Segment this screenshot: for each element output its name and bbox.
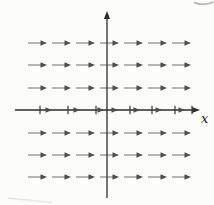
field-arrowhead [161,62,168,67]
field-arrowhead [113,85,120,90]
field-arrowhead [113,40,120,45]
field-arrowhead [89,62,96,67]
axis-field-arrowhead [156,107,163,112]
field-arrowhead [185,40,192,45]
field-arrowhead [89,152,96,157]
field-arrowhead [113,130,120,135]
axis-field-arrowhead [74,107,81,112]
bottom-left-scan-smudge [8,198,52,203]
field-arrowhead [137,40,144,45]
field-arrowhead [89,85,96,90]
field-arrowhead [161,130,168,135]
field-arrowhead [137,130,144,135]
field-arrowhead [65,152,72,157]
field-arrowhead [185,152,192,157]
axis-field-arrowhead [46,107,53,112]
field-arrowhead [161,85,168,90]
axis-field-arrowhead [134,107,141,112]
field-arrowhead [65,40,72,45]
field-arrowhead [185,174,192,179]
field-arrowhead [113,152,120,157]
x-axis-label: x [201,111,209,126]
field-arrowhead [113,174,120,179]
field-arrowhead [161,174,168,179]
field-arrowhead [161,152,168,157]
field-arrowhead [41,62,48,67]
field-arrowhead [137,85,144,90]
field-arrowhead [41,152,48,157]
field-arrowhead [137,174,144,179]
y-axis-arrowhead [104,11,110,19]
field-arrowhead [137,152,144,157]
field-arrowhead [41,130,48,135]
x-axis-arrowhead [192,107,200,113]
field-arrowhead [89,174,96,179]
axis-field-arrowhead [179,107,186,112]
field-arrowhead [65,62,72,67]
field-arrowhead [65,174,72,179]
field-arrowhead [41,85,48,90]
axis-field-arrowhead [112,107,119,112]
direction-field-figure: x [0,0,214,205]
field-arrowhead [65,85,72,90]
field-arrowhead [185,85,192,90]
field-arrowhead [89,40,96,45]
field-arrowhead [161,40,168,45]
field-arrowhead [113,62,120,67]
top-right-print-artifact [194,2,214,4]
field-arrowhead [185,130,192,135]
axis-field-arrowhead [98,107,105,112]
field-arrowhead [137,62,144,67]
field-arrowhead [89,130,96,135]
direction-field-canvas: x [0,0,214,205]
field-arrowhead [65,130,72,135]
y-axis [104,11,110,198]
field-arrowhead [41,40,48,45]
field-arrowhead [41,174,48,179]
field-arrowhead [185,62,192,67]
